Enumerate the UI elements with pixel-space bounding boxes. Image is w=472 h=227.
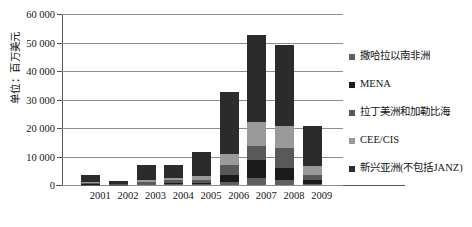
bar-segment [164, 165, 183, 178]
bar-segment [247, 122, 266, 145]
bar-segment [303, 126, 322, 166]
gridline [62, 14, 343, 15]
legend-item[interactable]: CEE/CIS [349, 130, 472, 151]
y-axis-tick-label: 60 000 [26, 9, 55, 20]
bar-segment [81, 175, 100, 182]
legend-item[interactable]: 新兴亚洲(不包括JANZ) [349, 158, 472, 179]
gridline [62, 185, 343, 186]
bar-segment [164, 184, 183, 185]
legend-item-label: 新兴亚洲(不包括JANZ) [360, 163, 463, 174]
bar-2008 [275, 45, 294, 185]
y-axis-tick-label: 50 000 [26, 37, 55, 48]
legend-item[interactable]: MENA [349, 74, 472, 95]
bar-2003 [137, 165, 156, 185]
bar-segment [137, 184, 156, 185]
bar-2002 [109, 181, 128, 185]
bar-segment [275, 148, 294, 168]
bar-segment [275, 168, 294, 180]
y-axis-tick [57, 185, 62, 186]
bar-segment [220, 154, 239, 165]
bar-segment [275, 45, 294, 127]
y-axis-tick [57, 14, 62, 15]
legend-swatch-icon [349, 166, 355, 172]
bar-segment [220, 92, 239, 154]
bar-segment [275, 126, 294, 148]
bar-segment [247, 160, 266, 177]
y-axis-tick-label: 30 000 [26, 94, 55, 105]
bar-2004 [164, 165, 183, 186]
bar-segment [220, 165, 239, 174]
y-axis-tick [57, 128, 62, 129]
x-axis-tick-label: 2009 [301, 190, 343, 201]
legend-swatch-icon [349, 110, 355, 116]
bar-2001 [81, 175, 100, 185]
legend-swatch-icon [349, 54, 355, 60]
gridline [62, 100, 343, 101]
bar-segment [303, 166, 322, 175]
legend-item-label: 拉丁美洲和加勒比海 [360, 107, 450, 118]
gridline [62, 71, 343, 72]
bar-2007 [247, 35, 266, 185]
bar-segment [247, 146, 266, 161]
y-axis-tick-label: 40 000 [26, 66, 55, 77]
bar-segment [137, 165, 156, 180]
legend-item-label: 撒哈拉以南非洲 [360, 51, 430, 62]
gridline [62, 128, 343, 129]
bar-2009 [303, 126, 322, 185]
bar-segment [220, 175, 239, 182]
bar-segment [192, 184, 211, 185]
bar-segment [220, 182, 239, 185]
y-axis-tick [57, 100, 62, 101]
bar-2005 [192, 152, 211, 185]
legend: 撒哈拉以南非洲MENA拉丁美洲和加勒比海CEE/CIS新兴亚洲(不包括JANZ) [349, 46, 472, 186]
plot-area: 010 00020 00030 00040 00050 00060 000 20… [62, 14, 343, 185]
bar-2006 [220, 92, 239, 185]
y-axis-tick [57, 43, 62, 44]
gridline [62, 43, 343, 44]
y-axis-title: 单位：百万美元 [7, 8, 22, 128]
bar-segment [303, 184, 322, 185]
legend-item[interactable]: 撒哈拉以南非洲 [349, 46, 472, 67]
y-axis-tick [57, 157, 62, 158]
legend-item-label: MENA [360, 79, 391, 90]
y-axis-tick [57, 71, 62, 72]
legend-item[interactable]: 拉丁美洲和加勒比海 [349, 102, 472, 123]
bar-segment [247, 35, 266, 123]
bar-segment [275, 180, 294, 185]
bar-segment [247, 178, 266, 185]
legend-swatch-icon [349, 82, 355, 88]
y-axis-tick-label: 0 [50, 180, 55, 191]
y-axis-tick-label: 10 000 [26, 151, 55, 162]
bar-segment [192, 152, 211, 176]
legend-item-label: CEE/CIS [360, 135, 399, 146]
legend-swatch-icon [349, 138, 355, 144]
stacked-bar-chart: 单位：百万美元 010 00020 00030 00040 00050 0006… [0, 0, 472, 227]
y-axis-tick-label: 20 000 [26, 123, 55, 134]
